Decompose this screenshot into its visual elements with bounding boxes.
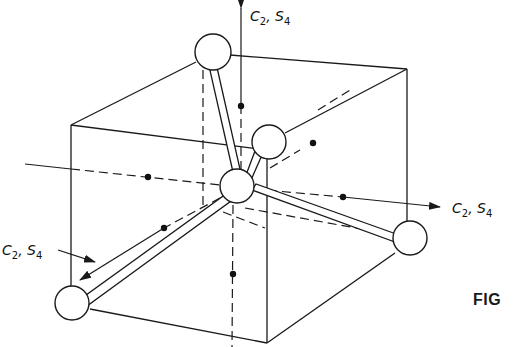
atom-top-front-right <box>252 125 286 159</box>
axis-label-vertical: C2, S4 <box>250 8 290 27</box>
cube-top-left-edge <box>71 62 196 125</box>
bond-bottom-left <box>82 194 231 306</box>
cube-top-right-edge <box>285 69 407 133</box>
bond-top <box>209 63 242 181</box>
axis-point-dot <box>310 140 316 146</box>
axis-label-diagonal: C2, S4 <box>2 242 42 261</box>
figure-caption: FIG <box>473 291 501 309</box>
horizontal-axis-left-segment <box>25 164 71 169</box>
label-pointer-arrow <box>58 250 95 262</box>
atom-central <box>220 169 254 203</box>
axis-point-dot <box>238 103 244 109</box>
cube-right-bottom-edge <box>267 253 395 343</box>
axis-label-horizontal: C2, S4 <box>452 200 492 219</box>
atom-top-back-left <box>195 34 231 70</box>
molecule-cube-diagram: C2, S4 C2, S4 C2, S4 <box>0 0 513 347</box>
atom-bottom-back-right <box>393 221 427 255</box>
cube-top-back-edge <box>230 55 407 69</box>
axis-point-dot <box>145 174 151 180</box>
atom-bottom-front-left <box>55 286 89 320</box>
horizontal-axis-arrow <box>343 197 440 207</box>
cube-front-bottom-edge <box>90 309 267 343</box>
axis-point-dot <box>230 271 236 277</box>
cube-front-top-edge <box>71 125 267 150</box>
